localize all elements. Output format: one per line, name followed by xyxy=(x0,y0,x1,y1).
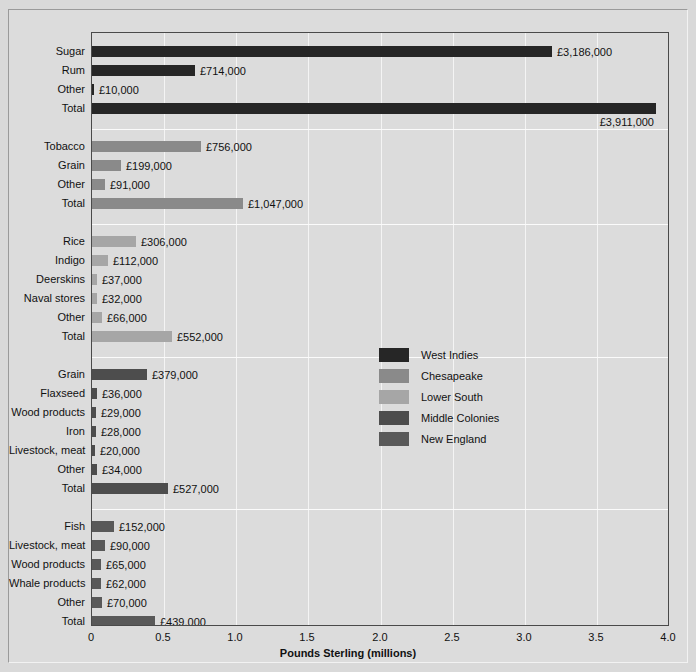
bar xyxy=(92,388,97,399)
bar-value-label: £37,000 xyxy=(102,275,142,286)
bar-value-label: £29,000 xyxy=(101,408,141,419)
bar xyxy=(92,559,101,570)
category-label: Total xyxy=(9,198,85,209)
category-label: Other xyxy=(9,312,85,323)
bar xyxy=(92,103,656,114)
bar xyxy=(92,426,96,437)
legend-label: New England xyxy=(421,433,486,445)
bar xyxy=(92,445,95,456)
gridline-vertical xyxy=(525,33,526,625)
category-label: Tobacco xyxy=(9,141,85,152)
x-tick-label: 0.5 xyxy=(155,631,170,643)
x-tick-label: 3.5 xyxy=(588,631,603,643)
x-tick-label: 0 xyxy=(88,631,94,643)
bar-value-label: £152,000 xyxy=(119,522,165,533)
gridline-vertical xyxy=(381,33,382,625)
bar-value-label: £756,000 xyxy=(206,142,252,153)
legend-swatch xyxy=(379,432,409,446)
category-label: Other xyxy=(9,597,85,608)
legend-swatch xyxy=(379,369,409,383)
bar-value-label: £70,000 xyxy=(107,598,147,609)
bar-value-label: £3,186,000 xyxy=(557,47,612,58)
category-label: Iron xyxy=(9,426,85,437)
bar xyxy=(92,312,102,323)
legend-swatch xyxy=(379,390,409,404)
bar-value-label: £3,911,000 xyxy=(600,117,654,128)
bar xyxy=(92,65,195,76)
figure-frame: £3,186,000£714,000£10,000£3,911,000£756,… xyxy=(8,9,688,663)
x-tick-label: 1.5 xyxy=(299,631,314,643)
bar-value-label: £10,000 xyxy=(99,85,139,96)
x-tick-label: 3.0 xyxy=(516,631,531,643)
category-label: Sugar xyxy=(9,46,85,57)
bar xyxy=(92,293,97,304)
category-label: Other xyxy=(9,464,85,475)
category-label: Naval stores xyxy=(9,293,85,304)
gridline-horizontal xyxy=(92,509,668,510)
category-label: Rum xyxy=(9,65,85,76)
bar xyxy=(92,179,105,190)
bar xyxy=(92,331,172,342)
bar xyxy=(92,198,243,209)
bar xyxy=(92,141,201,152)
bar xyxy=(92,540,105,551)
plot-area: £3,186,000£714,000£10,000£3,911,000£756,… xyxy=(91,32,669,626)
category-label: Livestock, meat xyxy=(9,540,85,551)
gridline-horizontal xyxy=(92,129,668,130)
bar-value-label: £28,000 xyxy=(101,427,141,438)
bar-value-label: £1,047,000 xyxy=(248,199,303,210)
bar xyxy=(92,464,97,475)
bar-value-label: £379,000 xyxy=(152,370,198,381)
bar-value-label: £20,000 xyxy=(100,446,140,457)
bar-value-label: £552,000 xyxy=(177,332,223,343)
x-tick-label: 4.0 xyxy=(660,631,675,643)
category-label: Indigo xyxy=(9,255,85,266)
category-label: Total xyxy=(9,331,85,342)
bar xyxy=(92,84,94,95)
category-label: Fish xyxy=(9,521,85,532)
bar-value-label: £199,000 xyxy=(126,161,172,172)
category-label: Other xyxy=(9,179,85,190)
bar xyxy=(92,578,101,589)
x-tick-label: 2.5 xyxy=(444,631,459,643)
bar xyxy=(92,160,121,171)
bar xyxy=(92,236,136,247)
category-label: Wood products xyxy=(9,407,85,418)
bar xyxy=(92,597,102,608)
category-label: Rice xyxy=(9,236,85,247)
bar-value-label: £34,000 xyxy=(102,465,142,476)
bar xyxy=(92,407,96,418)
bar xyxy=(92,369,147,380)
category-label: Wood products xyxy=(9,559,85,570)
category-label: Whale products xyxy=(9,578,85,589)
bar-value-label: £90,000 xyxy=(110,541,150,552)
gridline-vertical xyxy=(164,33,165,625)
category-label: Other xyxy=(9,84,85,95)
bar-value-label: £65,000 xyxy=(106,560,146,571)
category-label: Total xyxy=(9,103,85,114)
gridline-vertical xyxy=(308,33,309,625)
x-tick-label: 1.0 xyxy=(227,631,242,643)
category-label: Deerskins xyxy=(9,274,85,285)
bar-value-label: £62,000 xyxy=(106,579,146,590)
gridline-vertical xyxy=(597,33,598,625)
legend-swatch xyxy=(379,411,409,425)
bar-value-label: £36,000 xyxy=(102,389,142,400)
gridline-horizontal xyxy=(92,224,668,225)
bar xyxy=(92,274,97,285)
bar-value-label: £527,000 xyxy=(173,484,219,495)
legend-label: Chesapeake xyxy=(421,370,483,382)
gridline-vertical xyxy=(453,33,454,625)
category-label: Grain xyxy=(9,160,85,171)
bar-value-label: £439,000 xyxy=(160,617,206,626)
legend-label: Lower South xyxy=(421,391,483,403)
bar-value-label: £714,000 xyxy=(200,66,246,77)
category-label: Flaxseed xyxy=(9,388,85,399)
bar xyxy=(92,46,552,57)
bar-value-label: £32,000 xyxy=(102,294,142,305)
legend-label: Middle Colonies xyxy=(421,412,499,424)
category-label: Total xyxy=(9,616,85,627)
legend-label: West Indies xyxy=(421,349,478,361)
gridline-vertical xyxy=(236,33,237,625)
chart-figure: £3,186,000£714,000£10,000£3,911,000£756,… xyxy=(0,0,696,672)
